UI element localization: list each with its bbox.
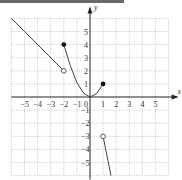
y-axis-label: y (93, 3, 98, 12)
x-tick-label: −2 (60, 100, 69, 109)
function-graph: xy−5−4−3−2−101234554321−1−2−3−4−5 (0, 0, 182, 180)
x-tick-label: 3 (127, 100, 131, 109)
x-tick-label: −3 (47, 100, 56, 109)
closed-endpoint (101, 82, 106, 87)
x-tick-label: 5 (154, 100, 158, 109)
open-endpoint (62, 69, 67, 74)
y-tick-label: 3 (84, 54, 88, 63)
x-tick-label: −4 (34, 100, 43, 109)
x-tick-label: 4 (140, 100, 144, 109)
segment-right (103, 136, 111, 175)
open-endpoint (101, 134, 106, 139)
closed-endpoint (61, 42, 66, 47)
y-tick-label: 4 (84, 41, 88, 50)
x-tick-label: −5 (21, 100, 30, 109)
x-tick-label: 2 (114, 100, 118, 109)
y-tick-label: −1 (81, 106, 90, 115)
y-axis-arrow-icon (88, 6, 93, 13)
y-tick-label: 5 (84, 28, 88, 37)
y-tick-label: −4 (81, 145, 90, 154)
y-tick-label: −2 (81, 119, 90, 128)
y-tick-label: −3 (81, 132, 90, 141)
x-tick-label: 1 (101, 100, 105, 109)
y-tick-label: 1 (84, 80, 88, 89)
y-tick-label: −5 (81, 159, 90, 168)
x-axis-label: x (177, 87, 182, 96)
y-tick-label: 2 (84, 67, 88, 76)
